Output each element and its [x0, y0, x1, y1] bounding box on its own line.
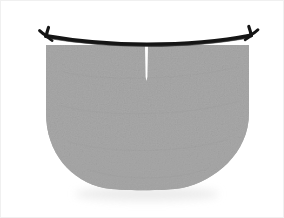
- superior-rim: [46, 36, 251, 45]
- figure-canvas: Bowl-shaped anatomical structure with da…: [0, 0, 284, 218]
- terminal-right-hook-icon: [245, 27, 258, 40]
- terminal-left-hook-icon: [40, 28, 53, 41]
- figure-illustration: [1, 1, 284, 218]
